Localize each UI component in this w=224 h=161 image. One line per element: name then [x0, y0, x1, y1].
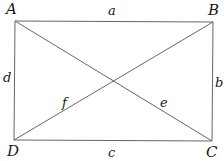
vertex-label-c: C — [206, 145, 217, 160]
diagonal-label-f: f — [62, 96, 67, 109]
vertex-label-d: D — [7, 144, 19, 159]
side-a — [15, 21, 213, 22]
diagonal-f — [14, 22, 213, 140]
rectangle-diagram — [0, 0, 224, 161]
side-b — [212, 22, 213, 141]
side-label-a: a — [108, 4, 116, 17]
side-label-c: c — [108, 146, 115, 159]
side-c — [14, 140, 212, 141]
side-d — [14, 21, 15, 140]
side-label-d: d — [3, 71, 11, 84]
diagonal-label-e: e — [160, 96, 168, 109]
side-label-b: b — [215, 76, 223, 89]
vertex-label-a: A — [6, 2, 17, 17]
vertex-label-b: B — [208, 3, 219, 18]
